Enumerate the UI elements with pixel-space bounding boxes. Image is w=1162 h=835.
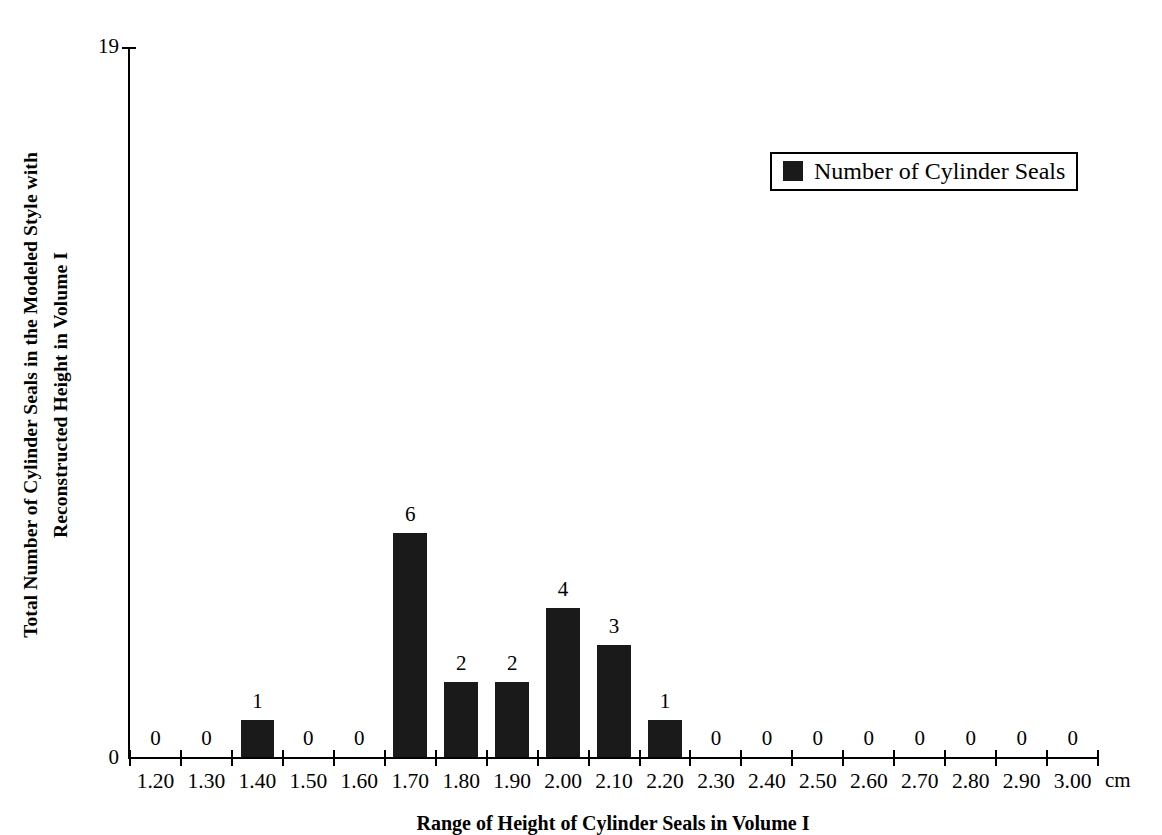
bar-slot: 0 [130, 47, 181, 757]
bar-value-label: 2 [436, 653, 487, 674]
x-axis-tick [385, 750, 436, 766]
x-axis-tick-label: 1.70 [385, 770, 436, 794]
bar-value-label: 0 [130, 728, 181, 749]
bar-slot: 2 [436, 47, 487, 757]
x-axis-tick [436, 750, 487, 766]
tick-mark [995, 750, 997, 766]
x-axis-tick [741, 750, 792, 766]
bar-value-label: 0 [894, 728, 945, 749]
bar-slot: 1 [640, 47, 691, 757]
bar-value-label: 0 [945, 728, 996, 749]
bar-slot: 3 [589, 47, 640, 757]
x-axis-tick-label: 1.80 [436, 770, 487, 794]
x-axis-tick-label: 1.60 [334, 770, 385, 794]
x-axis-tick-label: 2.60 [843, 770, 894, 794]
x-axis-unit-label: cm [1105, 770, 1131, 791]
legend: Number of Cylinder Seals [770, 152, 1078, 191]
x-axis-tick-label: 2.10 [589, 770, 640, 794]
bar-slot: 1 [232, 47, 283, 757]
tick-mark [740, 750, 742, 766]
bar-value-label: 0 [283, 728, 334, 749]
bar-value-label: 0 [1047, 728, 1098, 749]
x-axis-tick-label: 1.30 [181, 770, 232, 794]
legend-label: Number of Cylinder Seals [814, 159, 1065, 183]
bar [546, 608, 580, 757]
x-axis-tick-label: 2.70 [894, 770, 945, 794]
x-axis-tick-label: 2.50 [792, 770, 843, 794]
tick-mark [333, 750, 335, 766]
tick-mark [180, 750, 182, 766]
x-axis-tick [538, 750, 589, 766]
bar-slot: 4 [538, 47, 589, 757]
x-axis-ticks [130, 750, 1098, 766]
tick-mark [537, 750, 539, 766]
x-axis-tick-label: 3.00 [1047, 770, 1098, 794]
x-axis-tick [1047, 750, 1098, 766]
x-axis-tick-label: 1.90 [487, 770, 538, 794]
tick-mark [384, 750, 386, 766]
bar-value-label: 0 [181, 728, 232, 749]
bar-value-label: 0 [996, 728, 1047, 749]
y-axis-title-line-2: Reconstructed Height in Volume I [46, 152, 76, 638]
x-axis-tick [487, 750, 538, 766]
y-axis-min-label: 0 [109, 747, 120, 768]
tick-mark [1097, 750, 1099, 766]
bar [393, 533, 427, 757]
bar-slot: 0 [283, 47, 334, 757]
x-axis-tick [232, 750, 283, 766]
y-axis-title: Total Number of Cylinder Seals in the Mo… [0, 0, 92, 790]
bar-slot: 0 [334, 47, 385, 757]
legend-swatch-icon [783, 161, 803, 181]
x-axis-tick-label: 1.50 [283, 770, 334, 794]
tick-mark [893, 750, 895, 766]
x-axis-tick-label: 2.40 [741, 770, 792, 794]
bar-slot: 0 [690, 47, 741, 757]
x-axis-tick [996, 750, 1047, 766]
tick-mark [689, 750, 691, 766]
x-axis-tick-label: 1.40 [232, 770, 283, 794]
bar [597, 645, 631, 757]
tick-mark [588, 750, 590, 766]
bar-value-label: 0 [690, 728, 741, 749]
x-axis-tick [283, 750, 334, 766]
x-axis-tick [640, 750, 691, 766]
x-axis-tick [589, 750, 640, 766]
x-axis-tick-label: 1.20 [130, 770, 181, 794]
x-axis-tick-label: 2.00 [538, 770, 589, 794]
tick-mark [486, 750, 488, 766]
bar-slot: 6 [385, 47, 436, 757]
bar-value-label: 4 [538, 579, 589, 600]
bar-value-label: 3 [589, 616, 640, 637]
bar-value-label: 0 [843, 728, 894, 749]
x-axis-tick-label: 2.30 [690, 770, 741, 794]
tick-mark [639, 750, 641, 766]
x-axis-tick [792, 750, 843, 766]
tick-mark [944, 750, 946, 766]
x-axis-tick-label: 2.80 [945, 770, 996, 794]
x-axis-tick-label: 2.20 [640, 770, 691, 794]
x-axis-tick [945, 750, 996, 766]
tick-mark [129, 750, 131, 766]
bar-value-label: 1 [640, 691, 691, 712]
bar [495, 682, 529, 757]
tick-mark [282, 750, 284, 766]
tick-mark [1046, 750, 1048, 766]
bar-value-label: 0 [334, 728, 385, 749]
x-axis-tick-label: 2.90 [996, 770, 1047, 794]
bar-value-label: 0 [741, 728, 792, 749]
x-axis-tick [334, 750, 385, 766]
bar-value-label: 1 [232, 691, 283, 712]
bar [444, 682, 478, 757]
x-axis-tick-labels: 1.201.301.401.501.601.701.801.902.002.10… [130, 770, 1098, 794]
x-axis-tick [181, 750, 232, 766]
bar-value-label: 6 [385, 504, 436, 525]
bar-value-label: 2 [487, 653, 538, 674]
bar-slot: 2 [487, 47, 538, 757]
bar-slot: 0 [181, 47, 232, 757]
tick-mark [435, 750, 437, 766]
x-axis-tick [130, 750, 181, 766]
tick-mark [842, 750, 844, 766]
tick-mark [791, 750, 793, 766]
tick-mark [231, 750, 233, 766]
